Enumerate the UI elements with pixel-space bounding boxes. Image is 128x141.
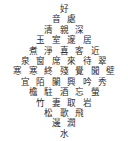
poem-char: 岩 [80,98,96,108]
poem-char: 邃 [64,35,80,45]
poem-char: 泉 [18,56,34,66]
poem-char: 處 [64,14,80,24]
poem-char: 來 [64,56,80,66]
poem-char: 殘 [56,66,72,76]
poem-row: 煮 淨 喜 客 近 [25,46,103,56]
poem-char: 客 [72,46,88,56]
poem-char: 淨 [41,46,57,56]
poem-char: 飛 [72,108,88,118]
poem-char: 清 [41,25,57,35]
poem-char: 忘 [72,87,88,97]
poem-char: 檐 [25,87,41,97]
poem-char: 潤 [64,118,80,128]
poem-char: 妻 [49,98,65,108]
poem-row: 泉 窗 席 來 待 翠 [18,56,111,66]
poem-row: 檐 駐 酒 忘 螢 [25,87,103,97]
poem-char: 居 [80,35,96,45]
poem-char: 闌 [49,77,65,87]
poem-row: 宜 陌 闌 興 吟 秀 [18,77,111,87]
poem-char: 親 [56,25,72,35]
poem-char: 窗 [33,56,49,66]
poem-char: 壁 [103,66,119,76]
poem-row: 竹 妻 取 岩 [33,98,95,108]
poem-char: 好 [56,4,72,14]
poem-char: 酒 [56,87,72,97]
poem-row: 玉 室 邃 居 [33,35,95,45]
poem-char: 吟 [80,77,96,87]
poem-char: 煮 [25,46,41,56]
poem-char: 聞 [87,66,103,76]
poem-char: 竹 [33,98,49,108]
poem-char: 玉 [33,35,49,45]
poem-row: 音 處 [49,14,80,24]
poem-char: 歌 [56,108,72,118]
poem-char: 近 [87,46,103,56]
poem-char: 駐 [41,87,57,97]
poem-row: 邊 潤 [49,118,80,128]
poem-char: 終 [41,66,57,76]
poem-char: 深 [72,25,88,35]
poem-char: 陌 [33,77,49,87]
poem-row: 寒 寒 終 殘 覺 聞 壁 [10,66,119,76]
poem-char: 水 [56,129,72,139]
poem-row: 好 [56,4,72,14]
poem-row: 水 [56,129,72,139]
poem-char: 邊 [49,118,65,128]
poem-char: 音 [49,14,65,24]
poem-char: 螢 [87,87,103,97]
poem-char: 取 [64,98,80,108]
poem-char: 席 [49,56,65,66]
poem-char: 秀 [95,77,111,87]
poem-row: 清 親 深 [41,25,88,35]
poem-char: 翠 [95,56,111,66]
poem-char: 寒 [25,66,41,76]
poem-char: 宜 [18,77,34,87]
poem-char: 喜 [56,46,72,56]
poem-char: 待 [80,56,96,66]
poem-char: 覺 [72,66,88,76]
poem-char: 寒 [10,66,26,76]
poem-char: 興 [64,77,80,87]
diamond-poem-container: 好 音 處 清 親 深 玉 室 邃 居 煮 淨 喜 客 近 泉 窗 席 來 待 … [0,0,128,141]
poem-char: 松 [41,108,57,118]
poem-row: 松 歌 飛 [41,108,88,118]
poem-char: 室 [49,35,65,45]
